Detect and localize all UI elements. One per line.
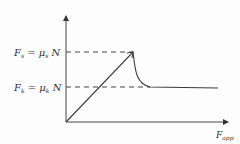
friction-diagram: Fs = μs N Fk = μk N Fapp (0, 0, 240, 144)
fk-label: Fk = μk N (13, 82, 63, 94)
x-axis-label: Fapp (215, 130, 234, 142)
fs-label: Fs = μs N (13, 47, 62, 59)
diagram-svg: Fs = μs N Fk = μk N Fapp (0, 0, 240, 144)
